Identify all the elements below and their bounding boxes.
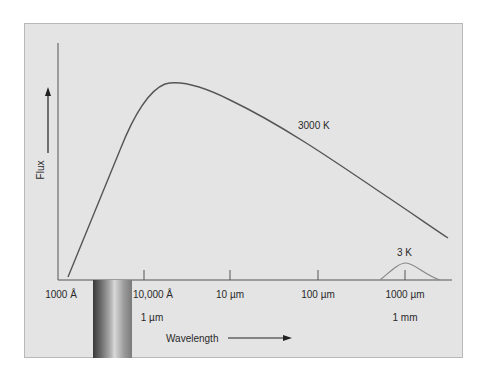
curve-3000k xyxy=(68,83,448,277)
tick-label-10um: 10 µm xyxy=(216,289,244,300)
tick-label-1um: 1 µm xyxy=(141,312,163,323)
tick-label-1000um: 1000 µm xyxy=(385,289,424,300)
tick-label-100um: 100 µm xyxy=(301,289,335,300)
visible-band-bar xyxy=(93,280,132,358)
y-axis-label: Flux xyxy=(35,161,46,180)
curve-3k xyxy=(380,263,440,280)
wavelength-arrow-icon xyxy=(283,335,292,341)
flux-arrow-icon xyxy=(45,87,51,96)
x-axis-label: Wavelength xyxy=(166,333,218,344)
tick-label-1000A: 1000 Å xyxy=(45,289,77,300)
curve-label-3k: 3 K xyxy=(397,247,412,258)
curve-label-3000k: 3000 K xyxy=(298,120,330,131)
tick-label-1mm: 1 mm xyxy=(393,312,418,323)
tick-label-10000A: 10,000 Å xyxy=(133,289,173,300)
